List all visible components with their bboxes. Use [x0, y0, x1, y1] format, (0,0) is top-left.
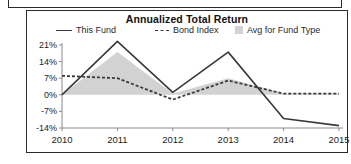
x-axis-tick-label: 2012	[162, 134, 183, 145]
annualized-total-return-panel: Annualized Total Return This Fund Bond I…	[26, 10, 348, 153]
x-axis-tick-label: 2014	[273, 134, 294, 145]
x-axis-labels: 201020112012201320142015YTD	[27, 11, 347, 152]
x-axis-tick-label: 2015	[328, 134, 349, 145]
plot-area: 21%14%7%0%-7%-14% 2010201120122013201420…	[27, 11, 347, 152]
x-axis-tick-label: 2010	[51, 134, 72, 145]
x-axis-tick-label: 2011	[107, 134, 127, 145]
clipped-top-panel	[8, 0, 342, 8]
x-axis-tick-label: 2013	[218, 134, 239, 145]
